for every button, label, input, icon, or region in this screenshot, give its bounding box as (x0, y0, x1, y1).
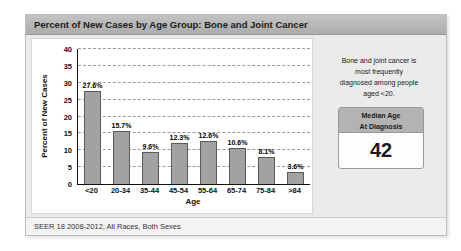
y-tick-label: 0 (68, 180, 72, 189)
bar (229, 148, 246, 184)
y-tick-label: 35 (64, 62, 72, 71)
x-axis-tick-labels: <2020-3435-4445-5455-6465-7475-84>84 (77, 186, 309, 195)
y-tick-label: 30 (64, 79, 72, 88)
summary-note-line: Bone and joint cancer is (317, 55, 441, 66)
widget-title: Percent of New Cases by Age Group: Bone … (34, 19, 308, 30)
bar (200, 141, 217, 184)
bar-chart-panel: Percent of New Cases 0510152025303540 27… (31, 38, 313, 214)
bar-slot: 12.6% (194, 49, 223, 184)
bar-slot: 10.6% (223, 49, 252, 184)
y-tick-label: 20 (64, 113, 72, 122)
summary-note-line: aged <20. (317, 88, 441, 99)
y-tick-label: 5 (68, 163, 72, 172)
x-tick-label: 75-84 (251, 186, 280, 195)
x-tick-label: 65-74 (222, 186, 251, 195)
median-age-header: Median Age At Diagnosis (339, 108, 423, 133)
bar-value-label: 15.7% (112, 122, 132, 129)
bar-value-label: 3.6% (288, 163, 304, 170)
y-tick-label: 15 (64, 129, 72, 138)
x-tick-label: 20-34 (106, 186, 135, 195)
bar-slot: 12.3% (165, 49, 194, 184)
bar-value-label: 12.3% (170, 134, 190, 141)
median-age-box: Median Age At Diagnosis 42 (338, 107, 424, 169)
median-age-header-line: Median Age (339, 110, 423, 121)
y-tick-label: 25 (64, 96, 72, 105)
x-tick-label: 55-64 (193, 186, 222, 195)
bar-slot: 27.6% (78, 49, 107, 184)
bar-value-label: 10.6% (228, 139, 248, 146)
bars-container: 27.6%15.7%9.6%12.3%12.6%10.6%8.1%3.6% (78, 49, 310, 184)
y-tick-label: 10 (64, 146, 72, 155)
bar (142, 152, 159, 184)
x-tick-label: <20 (77, 186, 106, 195)
bar-slot: 9.6% (136, 49, 165, 184)
bar-value-label: 9.6% (143, 143, 159, 150)
cancer-stats-widget: Percent of New Cases by Age Group: Bone … (25, 14, 447, 236)
widget-title-bar: Percent of New Cases by Age Group: Bone … (26, 15, 446, 35)
bar (171, 143, 188, 185)
bar-slot: 8.1% (252, 49, 281, 184)
median-age-value: 42 (339, 133, 423, 167)
x-tick-label: 35-44 (135, 186, 164, 195)
bar (84, 91, 101, 184)
y-axis: 0510152025303540 (32, 49, 75, 184)
bar-slot: 15.7% (107, 49, 136, 184)
bar-slot: 3.6% (281, 49, 310, 184)
footer-bar: SEER 18 2008-2012, All Races, Both Sexes (26, 217, 446, 235)
bar-value-label: 12.6% (199, 132, 219, 139)
median-age-header-line: At Diagnosis (339, 121, 423, 132)
summary-note-line: diagnosed among people (317, 77, 441, 88)
widget-content: Percent of New Cases 0510152025303540 27… (26, 35, 446, 217)
bar-value-label: 27.6% (83, 82, 103, 89)
summary-note: Bone and joint cancer is most frequently… (317, 55, 441, 99)
plot-area: 27.6%15.7%9.6%12.3%12.6%10.6%8.1%3.6% (77, 49, 310, 185)
y-tick-label: 40 (64, 45, 72, 54)
bar (113, 131, 130, 184)
x-tick-label: >84 (280, 186, 309, 195)
data-source-text: SEER 18 2008-2012, All Races, Both Sexes (34, 222, 181, 231)
bar (287, 172, 304, 184)
bar (258, 157, 275, 184)
x-axis-title: Age (77, 197, 309, 206)
bar-value-label: 8.1% (259, 148, 275, 155)
summary-note-line: most frequently (317, 66, 441, 77)
x-tick-label: 45-54 (164, 186, 193, 195)
